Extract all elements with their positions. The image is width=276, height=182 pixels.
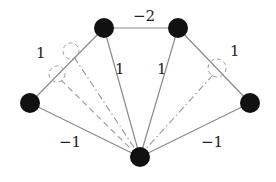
edge-label-center-left: 1	[115, 60, 125, 78]
aux-circle-left-lower	[49, 66, 65, 82]
node-left	[20, 93, 40, 113]
edge-top-left-bottom	[104, 28, 140, 157]
edge-label-left-upper: 1	[36, 44, 46, 62]
edge-right-bottom	[140, 103, 250, 157]
edge-label-right-upper: 1	[230, 42, 240, 60]
node-bottom	[130, 147, 150, 167]
auxiliary-lines	[61, 57, 213, 153]
edge-label-top: −2	[133, 7, 155, 25]
auxiliary-circles	[49, 43, 226, 82]
edge-label-left-lower: −1	[59, 133, 81, 151]
node-top-right	[168, 18, 188, 38]
nodes	[20, 18, 260, 167]
edge-left-bottom	[30, 103, 140, 157]
node-right	[240, 93, 260, 113]
edge-left-top-left	[30, 28, 104, 103]
edge-label-right-lower: −1	[201, 133, 223, 151]
graph-diagram: −2 1 1 1 1 −1 −1	[0, 0, 276, 182]
edge-top-right-right	[178, 28, 250, 103]
edge-label-center-right: 1	[157, 60, 167, 78]
node-top-left	[94, 18, 114, 38]
edge-top-right-bottom	[140, 28, 178, 157]
aux-line-left-upper	[74, 57, 137, 152]
